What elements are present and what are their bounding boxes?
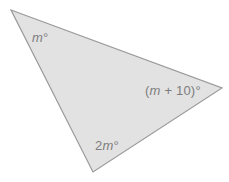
degree-symbol-icon: °: [43, 30, 48, 45]
angle-label-top-left-variable: m: [32, 30, 43, 45]
angle-label-bottom-variable: m: [102, 138, 113, 153]
angle-label-right: (m + 10)°: [145, 84, 201, 97]
angle-label-right-variable: m: [150, 83, 161, 98]
angle-label-right-constant: 10: [176, 83, 191, 98]
angle-label-bottom: 2m°: [95, 139, 119, 152]
plus-operator-icon: +: [161, 83, 176, 98]
triangle-figure: m° (m + 10)° 2m°: [0, 0, 229, 182]
plus-sign: +: [164, 83, 172, 98]
angle-label-top-left: m°: [32, 31, 48, 44]
degree-symbol-icon: °: [195, 83, 200, 98]
degree-symbol-icon: °: [113, 138, 118, 153]
